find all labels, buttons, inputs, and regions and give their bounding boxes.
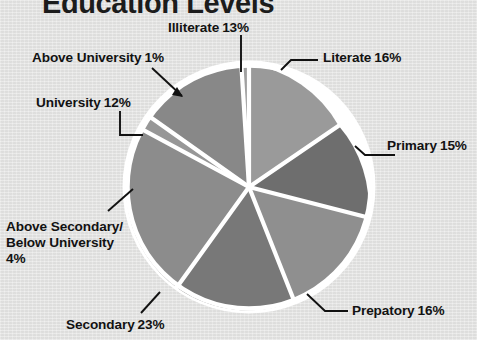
leader-line-secondary: [141, 292, 160, 313]
label-above-university-pct: 1%: [141, 50, 163, 65]
chart-canvas: Education Levels: [0, 0, 477, 340]
label-above-secondary-line1: Above Secondary/: [6, 219, 146, 235]
label-university-name: University: [36, 95, 101, 110]
label-secondary-name: Secondary: [66, 317, 135, 332]
label-prepatory-name: Prepatory: [352, 303, 415, 318]
label-primary-pct: 15%: [437, 138, 467, 153]
label-secondary-pct: 23%: [135, 317, 165, 332]
label-above-secondary-line2: Below University: [6, 235, 146, 251]
label-illiterate-pct: 13%: [219, 20, 249, 35]
label-above-secondary-line3: 4%: [6, 251, 146, 267]
label-university-pct: 12%: [101, 95, 131, 110]
label-university: University12%: [36, 95, 131, 111]
label-prepatory: Prepatory16%: [352, 303, 444, 319]
label-literate-name: Literate: [323, 50, 371, 65]
label-primary: Primary15%: [387, 138, 467, 154]
label-illiterate-name: Illiterate: [168, 20, 219, 35]
label-literate: Literate16%: [323, 50, 401, 66]
label-above-secondary: Above Secondary/ Below University 4%: [6, 219, 146, 267]
label-above-university-name: Above University: [32, 50, 141, 65]
label-secondary: Secondary23%: [66, 317, 165, 333]
label-illiterate: Illiterate13%: [168, 20, 249, 36]
label-above-university: Above University1%: [32, 50, 164, 66]
label-literate-pct: 16%: [371, 50, 401, 65]
leader-line-prepatory: [307, 294, 348, 311]
label-primary-name: Primary: [387, 138, 437, 153]
label-prepatory-pct: 16%: [415, 303, 445, 318]
